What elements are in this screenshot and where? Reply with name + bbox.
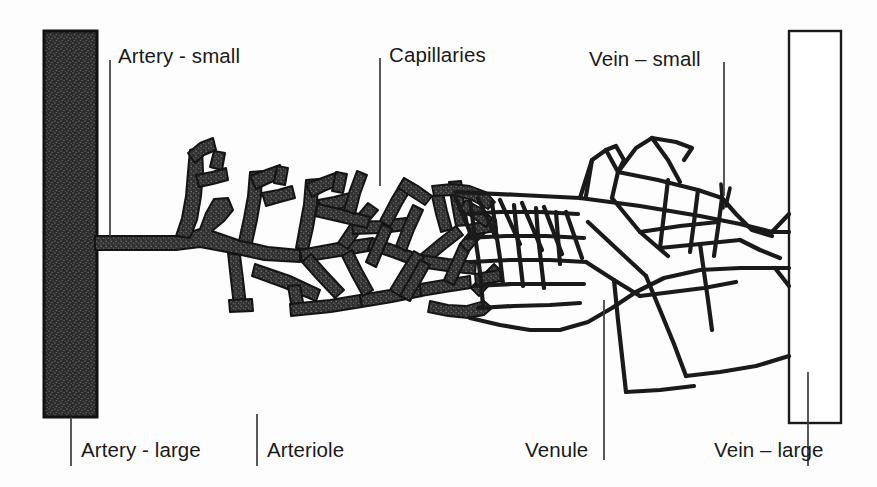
label-vein-small: Vein – small [589,49,701,70]
figure-canvas: Artery - small Capillaries Vein – small … [0,0,877,487]
arterial-branching-tree [95,138,502,316]
label-capillaries: Capillaries [389,45,486,66]
venous-branching-tree [455,138,789,392]
label-artery-small: Artery - small [118,46,240,67]
label-artery-large: Artery - large [81,440,201,461]
large-artery-trunk [44,31,97,417]
label-arteriole: Arteriole [267,440,344,461]
large-vein-trunk [789,31,841,423]
label-venule: Venule [525,440,588,461]
vascular-diagram [0,0,877,487]
label-vein-large: Vein – large [714,440,823,461]
